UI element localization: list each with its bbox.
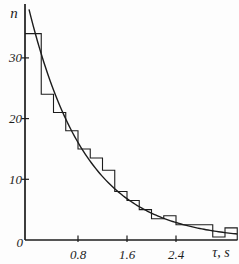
y-tick-label: 20: [9, 111, 23, 126]
chart-geometry: 1020300.81.62.4: [8, 4, 238, 262]
y-tick-label: 10: [9, 172, 23, 187]
origin-tick-label: 0: [17, 235, 24, 250]
y-tick-label: 30: [8, 50, 23, 65]
chart-canvas: 1020300.81.62.4 n τ, s 0: [0, 0, 239, 264]
histogram-outline: [25, 34, 237, 240]
x-tick-label: 1.6: [119, 247, 136, 262]
x-axis-label: τ, s: [212, 245, 230, 260]
y-axis-label: n: [10, 5, 18, 21]
x-tick-label: 0.8: [70, 247, 87, 262]
decay-histogram-figure: 1020300.81.62.4 n τ, s 0: [0, 0, 239, 264]
x-tick-label: 2.4: [168, 247, 185, 262]
